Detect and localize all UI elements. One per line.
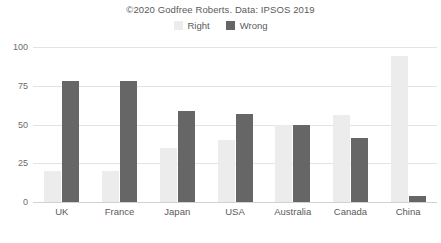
bar-japan-wrong[interactable] — [178, 111, 195, 202]
y-axis: 1007550250 — [0, 0, 28, 243]
bar-canada-wrong[interactable] — [351, 138, 368, 202]
bar-chart: ©2020 Godfree Roberts. Data: IPSOS 2019 … — [0, 0, 441, 243]
bar-france-right[interactable] — [102, 171, 119, 202]
bar-uk-right[interactable] — [44, 171, 61, 202]
x-axis-tick-label: Australia — [274, 206, 311, 217]
y-axis-tick-label: 75 — [2, 81, 28, 91]
y-axis-tick-label: 0 — [2, 197, 28, 207]
bar-china-wrong[interactable] — [409, 196, 426, 202]
bar-australia-wrong[interactable] — [293, 125, 310, 203]
bar-japan-right[interactable] — [160, 148, 177, 202]
bar-canada-right[interactable] — [333, 115, 350, 202]
y-axis-tick-label: 25 — [2, 158, 28, 168]
bar-uk-wrong[interactable] — [62, 81, 79, 202]
x-axis-tick-label: Japan — [164, 206, 190, 217]
plot-area: 1007550250 UKFranceJapanUSAAustraliaCana… — [0, 0, 441, 243]
bar-usa-wrong[interactable] — [236, 114, 253, 202]
y-axis-tick-label: 50 — [2, 120, 28, 130]
x-axis-tick-label: China — [396, 206, 421, 217]
x-axis-tick-label: UK — [55, 206, 68, 217]
y-axis-tick-label: 100 — [2, 42, 28, 52]
x-axis-tick-label: USA — [225, 206, 245, 217]
x-axis: UKFranceJapanUSAAustraliaCanadaChina — [33, 206, 437, 226]
bar-australia-right[interactable] — [275, 125, 292, 203]
bar-china-right[interactable] — [391, 56, 408, 202]
bar-usa-right[interactable] — [218, 140, 235, 202]
x-axis-tick-label: Canada — [334, 206, 367, 217]
bar-france-wrong[interactable] — [120, 81, 137, 202]
x-axis-tick-label: France — [105, 206, 135, 217]
